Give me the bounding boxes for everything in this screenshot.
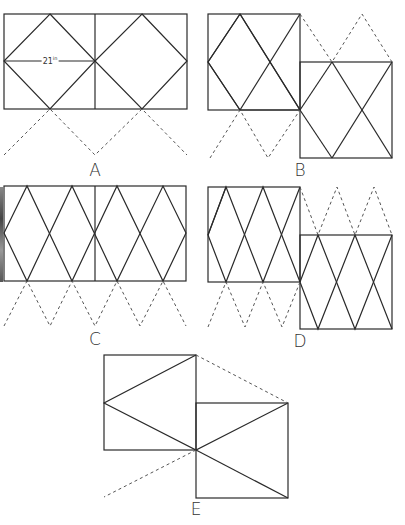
dimension-label: 21in <box>42 55 59 66</box>
dimension-value: 21 <box>43 57 53 66</box>
figure-b <box>208 14 392 158</box>
figure-e <box>104 355 288 498</box>
figure-d <box>208 187 392 329</box>
figure-label-e: E <box>191 499 202 519</box>
dimension-unit: in <box>53 55 58 61</box>
figure-label-c: C <box>89 329 101 349</box>
figure-label-d: D <box>293 331 306 351</box>
diagram-canvas <box>0 0 405 525</box>
figure-label-b: B <box>294 160 305 180</box>
figure-a <box>4 14 187 155</box>
figure-c <box>4 186 186 326</box>
figure-label-a: A <box>89 160 101 180</box>
